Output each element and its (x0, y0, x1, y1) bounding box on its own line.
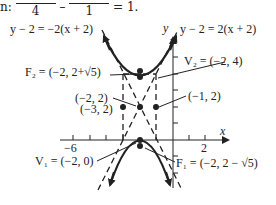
label-x-axis: x (220, 125, 225, 137)
point-center (137, 104, 143, 110)
tick-label-neg6: −6 (64, 142, 77, 154)
point-F1 (137, 143, 143, 149)
point-left (120, 104, 126, 110)
point-right (153, 104, 159, 110)
label-V1: V₁ = (−2, 0) (35, 155, 93, 167)
label-y-axis: y (163, 22, 168, 34)
label-right-point: (−1, 2) (188, 90, 221, 102)
point-V1 (137, 137, 143, 143)
label-asymptote-positive: y − 2 = 2(x + 2) (180, 23, 256, 35)
label-F1: F₁ = (−2, 2 − √5) (176, 157, 258, 169)
point-V2 (137, 74, 143, 80)
point-F2 (137, 68, 143, 74)
label-left-point: (−3, 2) (80, 103, 113, 115)
label-asymptote-negative: y − 2 = −2(x + 2) (10, 23, 93, 35)
label-V2: V₂ = (−2, 4) (184, 55, 242, 67)
label-F2: F₂ = (−2, 2+√5) (25, 66, 101, 78)
tick-label-2: 2 (201, 142, 207, 154)
